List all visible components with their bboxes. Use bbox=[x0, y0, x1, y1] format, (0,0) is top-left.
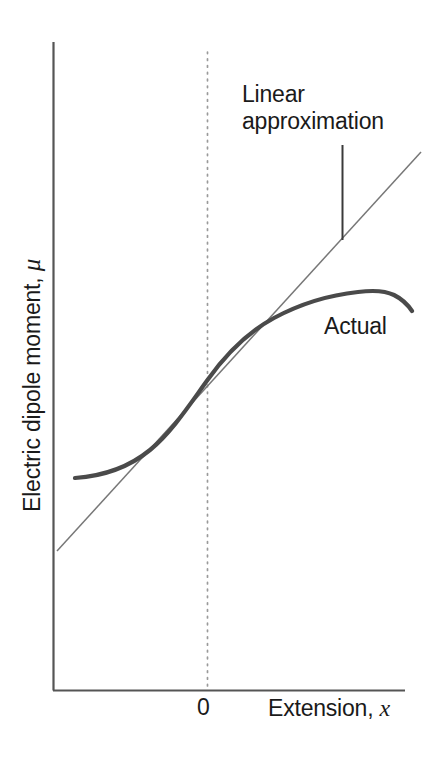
x-axis-title-text: Extension, bbox=[268, 695, 380, 721]
annotation-linear-approximation-line1: Linear bbox=[242, 81, 384, 108]
annotation-linear-approximation-line2: approximation bbox=[242, 108, 384, 135]
annotation-linear-approximation: Linear approximation bbox=[242, 81, 384, 135]
annotation-actual: Actual bbox=[324, 313, 387, 340]
figure-canvas: Linear approximation Actual 0 Extension,… bbox=[0, 0, 431, 758]
x-axis-tick-label-zero: 0 bbox=[197, 694, 210, 721]
y-axis-title: Electric dipole moment, μ bbox=[17, 192, 51, 512]
x-axis-title-symbol: x bbox=[380, 695, 390, 721]
series-linear-approximation bbox=[57, 152, 421, 551]
y-axis-title-text: Electric dipole moment, bbox=[19, 271, 45, 512]
y-axis-title-symbol: μ bbox=[18, 259, 45, 271]
x-axis-title: Extension, x bbox=[268, 694, 390, 722]
